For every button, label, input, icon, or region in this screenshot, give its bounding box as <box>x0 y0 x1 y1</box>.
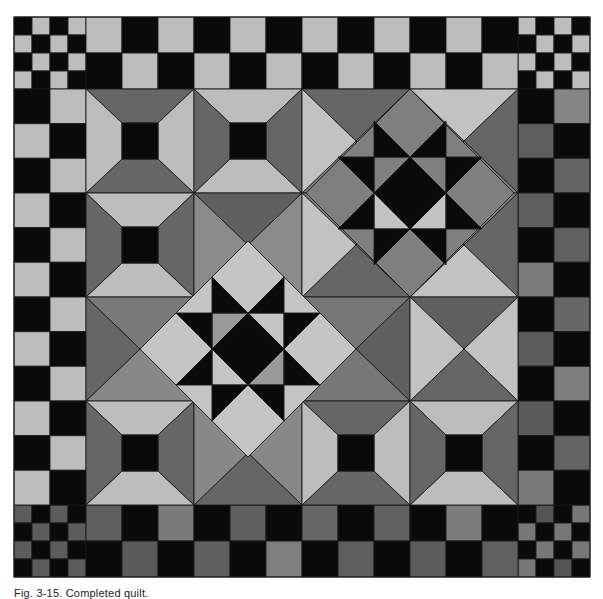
border-left-cell <box>50 262 86 297</box>
border-left-cell <box>50 124 86 159</box>
corner-top-right-cell <box>536 17 554 35</box>
corner-top-left-cell <box>32 71 50 89</box>
border-right-cell <box>554 436 590 471</box>
border-top-cell <box>194 53 230 89</box>
corner-top-right-cell <box>518 17 536 35</box>
border-bottom-cell <box>266 505 302 541</box>
border-top-cell <box>230 17 266 53</box>
border-right-cell <box>518 158 554 193</box>
border-left-cell <box>14 297 50 332</box>
border-top-cell <box>158 53 194 89</box>
corner-top-right-cell <box>572 35 590 53</box>
border-left-cell <box>14 470 50 505</box>
border-right-cell <box>518 436 554 471</box>
border-left-cell <box>50 297 86 332</box>
border-top-cell <box>86 53 122 89</box>
spool-center <box>446 435 482 471</box>
border-bottom-cell <box>446 505 482 541</box>
corner-bottom-left-cell <box>32 559 50 577</box>
spool-center <box>230 123 266 159</box>
border-left-cell <box>50 401 86 436</box>
border-left-cell <box>14 401 50 436</box>
corner-top-left-cell <box>14 53 32 71</box>
border-top-cell <box>446 17 482 53</box>
border-top-cell <box>122 17 158 53</box>
border-right-cell <box>554 401 590 436</box>
border-right-cell <box>518 228 554 263</box>
border-bottom-cell <box>194 505 230 541</box>
border-left-cell <box>50 470 86 505</box>
border-top-cell <box>302 53 338 89</box>
border-bottom-cell <box>86 505 122 541</box>
corner-top-left-cell <box>50 53 68 71</box>
border-bottom-cell <box>158 505 194 541</box>
border-bottom-cell <box>410 541 446 577</box>
corner-top-right-cell <box>536 71 554 89</box>
border-bottom-cell <box>122 505 158 541</box>
border-top-cell <box>122 53 158 89</box>
border-right-cell <box>554 89 590 124</box>
corner-top-right-cell <box>572 17 590 35</box>
border-top-cell <box>194 17 230 53</box>
border-top-cell <box>302 17 338 53</box>
corner-bottom-left-cell <box>32 523 50 541</box>
corner-bottom-left-cell <box>14 559 32 577</box>
border-left-cell <box>50 89 86 124</box>
corner-top-left-cell <box>32 53 50 71</box>
corner-top-left-cell <box>14 71 32 89</box>
border-right-cell <box>518 401 554 436</box>
corner-top-left-cell <box>68 17 86 35</box>
border-bottom-cell <box>122 541 158 577</box>
corner-bottom-left-cell <box>14 541 32 559</box>
border-left-cell <box>14 436 50 471</box>
corner-top-right-cell <box>536 53 554 71</box>
border-left-cell <box>14 193 50 228</box>
border-bottom-cell <box>266 541 302 577</box>
corner-bottom-left-cell <box>50 505 68 523</box>
border-bottom-cell <box>230 505 266 541</box>
border-left-cell <box>50 366 86 401</box>
border-bottom-cell <box>302 541 338 577</box>
border-top-cell <box>338 53 374 89</box>
corner-bottom-left-cell <box>50 523 68 541</box>
corner-top-right-cell <box>572 71 590 89</box>
corner-top-left-cell <box>50 71 68 89</box>
corner-top-left-cell <box>50 17 68 35</box>
corner-top-left-cell <box>32 35 50 53</box>
spool-center <box>338 435 374 471</box>
border-bottom-cell <box>230 541 266 577</box>
border-right-cell <box>518 89 554 124</box>
border-bottom-cell <box>338 505 374 541</box>
border-bottom-cell <box>446 541 482 577</box>
border-bottom-cell <box>86 541 122 577</box>
corner-bottom-right-cell <box>554 523 572 541</box>
corner-top-left-cell <box>68 53 86 71</box>
border-bottom-cell <box>194 541 230 577</box>
border-left-cell <box>14 89 50 124</box>
corner-bottom-right-cell <box>572 541 590 559</box>
border-right-cell <box>518 470 554 505</box>
corner-top-left-cell <box>68 35 86 53</box>
corner-bottom-right-cell <box>536 523 554 541</box>
border-bottom-cell <box>158 541 194 577</box>
border-top-cell <box>446 53 482 89</box>
corner-top-right-cell <box>554 53 572 71</box>
border-right-cell <box>554 262 590 297</box>
corner-top-right-cell <box>518 35 536 53</box>
corner-bottom-left-cell <box>68 505 86 523</box>
corner-bottom-left-cell <box>14 505 32 523</box>
border-top-cell <box>410 53 446 89</box>
border-top-cell <box>374 17 410 53</box>
border-right-cell <box>554 332 590 367</box>
border-bottom-cell <box>410 505 446 541</box>
border-left-cell <box>14 228 50 263</box>
border-right-cell <box>554 124 590 159</box>
corner-bottom-right-cell <box>572 523 590 541</box>
corner-top-left-cell <box>32 17 50 35</box>
corner-bottom-left-cell <box>32 541 50 559</box>
border-top-cell <box>86 17 122 53</box>
corner-top-left-cell <box>14 35 32 53</box>
border-right-cell <box>554 193 590 228</box>
corner-bottom-left-cell <box>50 559 68 577</box>
